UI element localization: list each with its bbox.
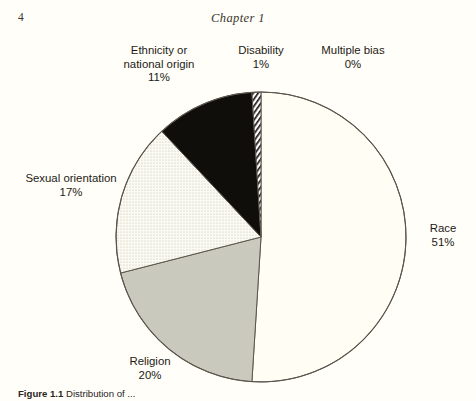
slice-label-ethnicity: Ethnicity or national origin 11%	[104, 44, 214, 85]
figure-1-1: Ethnicity or national origin 11% Disabil…	[0, 0, 476, 401]
slice-label-disability-pct: 1%	[223, 58, 299, 72]
pie-slices	[116, 92, 406, 382]
slice-label-sexual-orientation-pct: 17%	[8, 186, 134, 200]
slice-label-religion: Religion 20%	[108, 355, 192, 382]
pie-slice-race	[252, 92, 406, 382]
slice-label-multiple-bias-line1: Multiple bias	[321, 44, 384, 56]
slice-label-religion-pct: 20%	[108, 369, 192, 383]
figure-caption-text: Distribution of ...	[66, 388, 135, 399]
slice-label-sexual-orientation-line1: Sexual orientation	[25, 172, 116, 184]
slice-label-multiple-bias-pct: 0%	[307, 58, 399, 72]
slice-label-disability-line1: Disability	[238, 44, 284, 56]
slice-label-religion-line1: Religion	[129, 355, 170, 367]
slice-label-ethnicity-pct: 11%	[104, 71, 214, 85]
slice-label-sexual-orientation: Sexual orientation 17%	[8, 172, 134, 199]
figure-caption: Figure 1.1 Distribution of ...	[18, 388, 135, 399]
slice-label-multiple-bias: Multiple bias 0%	[307, 44, 399, 71]
slice-label-race-pct: 51%	[415, 236, 471, 250]
slice-label-disability: Disability 1%	[223, 44, 299, 71]
slice-label-ethnicity-line2: national origin	[124, 58, 195, 70]
slice-label-race: Race 51%	[415, 222, 471, 249]
slice-label-ethnicity-line1: Ethnicity or	[131, 44, 187, 56]
figure-caption-label: Figure 1.1	[18, 388, 63, 399]
slice-label-race-line1: Race	[430, 222, 457, 234]
